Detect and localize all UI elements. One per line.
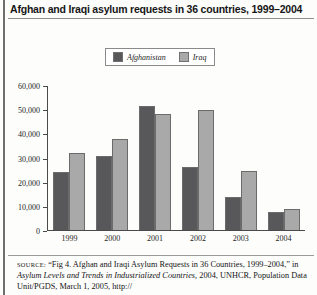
legend-label-afghanistan: Afghanistan (127, 53, 166, 62)
bar-iraq-2003 (241, 171, 257, 230)
bar-group (91, 86, 134, 230)
y-tick-label: 30,000 (18, 154, 40, 163)
x-tick-label: 2000 (91, 234, 134, 243)
bar-group (48, 86, 91, 230)
bar-afghanistan-2003 (225, 197, 241, 230)
y-tick (43, 183, 47, 184)
figure-source-note: SOURCE: “Fig 4. Afghan and Iraqi Asylum … (17, 259, 307, 293)
source-divider (8, 255, 314, 256)
legend-swatch-iraq (179, 52, 189, 62)
bar-iraq-2000 (112, 139, 128, 230)
y-tick (43, 207, 47, 208)
bar-iraq-2002 (198, 110, 214, 230)
bar-afghanistan-2001 (139, 106, 155, 230)
legend-swatch-afghanistan (113, 52, 123, 62)
bar-group (134, 86, 177, 230)
legend-label-iraq: Iraq (193, 53, 207, 62)
y-tick-label: 10,000 (18, 202, 40, 211)
x-axis-line (47, 230, 305, 231)
source-line-2-italic: Asylum Levels and Trends in Industrializ… (17, 271, 197, 280)
source-kicker: SOURCE: (17, 261, 46, 268)
x-tick-label: 2001 (134, 234, 177, 243)
bar-afghanistan-2004 (268, 212, 284, 230)
legend-item-afghanistan: Afghanistan (113, 52, 166, 62)
figure-page: Afghan and Iraqi asylum requests in 36 c… (0, 0, 317, 295)
source-line-2-plain: 1999–2004,” in (247, 260, 299, 269)
y-tick (43, 231, 47, 232)
bar-afghanistan-2000 (96, 156, 112, 230)
y-tick-label: 60,000 (18, 82, 40, 91)
y-tick (43, 86, 47, 87)
x-axis-labels: 199920002001200220032004 (48, 234, 305, 243)
y-tick-label: 20,000 (18, 178, 40, 187)
bar-group (262, 86, 305, 230)
y-tick (43, 110, 47, 111)
x-tick-label: 2002 (176, 234, 219, 243)
figure-title: Afghan and Iraqi asylum requests in 36 c… (10, 3, 310, 15)
x-tick-label: 2003 (219, 234, 262, 243)
bar-afghanistan-1999 (53, 172, 69, 230)
x-tick-label: 2004 (262, 234, 305, 243)
page-left-rule (3, 0, 5, 295)
y-tick-label: 50,000 (18, 106, 40, 115)
bar-iraq-1999 (69, 153, 85, 230)
y-tick-label: 0 (36, 227, 40, 236)
title-divider (8, 18, 314, 19)
x-tick-label: 1999 (48, 234, 91, 243)
bar-groups (48, 86, 305, 230)
chart-legend: Afghanistan Iraq (105, 48, 215, 66)
source-line-1: “Fig 4. Afghan and Iraqi Asylum Requests… (48, 260, 245, 269)
y-tick (43, 134, 47, 135)
bar-group (219, 86, 262, 230)
bar-iraq-2004 (284, 209, 300, 230)
bar-iraq-2001 (155, 114, 171, 230)
bar-group (176, 86, 219, 230)
legend-item-iraq: Iraq (179, 52, 207, 62)
y-tick-label: 40,000 (18, 130, 40, 139)
y-tick (43, 159, 47, 160)
bar-afghanistan-2002 (182, 167, 198, 230)
chart-plot-area: 010,00020,00030,00040,00050,00060,000 (47, 86, 305, 231)
